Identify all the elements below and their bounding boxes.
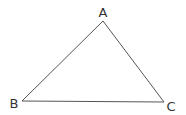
vertex-label-a: A (99, 5, 108, 20)
triangle-diagram: A B C (0, 0, 186, 115)
edge-ca (103, 21, 164, 102)
edge-ab (22, 21, 103, 101)
vertex-label-b: B (10, 96, 19, 111)
edge-bc (22, 101, 164, 102)
vertex-label-c: C (166, 99, 175, 114)
